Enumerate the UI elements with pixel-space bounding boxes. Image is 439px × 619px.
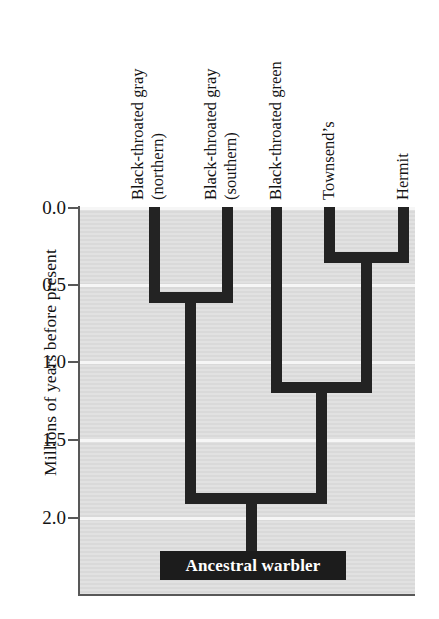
y-tick-label-4: 2.0: [10, 508, 66, 527]
branch-tip-black-throated-gray-southern: [222, 207, 233, 297]
branch-stem-root: [246, 493, 257, 551]
y-tick-label-1: 0.5: [10, 275, 66, 294]
y-tick-label-0: 0.0: [10, 198, 66, 217]
phylogenetic-tree-figure: Millions of years before present 0.0 0.5…: [0, 0, 439, 619]
taxon-label-line1: Black-throated gray: [128, 69, 148, 200]
taxon-label-line1: Black-throated gray: [201, 69, 221, 200]
taxon-label-black-throated-green: Black-throated green: [266, 61, 286, 200]
ancestral-warbler-label: Ancestral warbler: [160, 551, 346, 580]
taxon-label-line1: Townsend’s: [319, 121, 339, 200]
taxon-label-line1: Hermit: [393, 153, 413, 200]
branch-stem-gray-clade: [185, 292, 196, 504]
branch-tip-townsends: [324, 207, 335, 258]
taxon-label-line2: (southern): [221, 69, 241, 200]
x-axis-spine: [78, 594, 415, 596]
gridline-0.0: [80, 207, 415, 210]
plot-panel: [80, 207, 415, 594]
branch-stem-green-clade: [316, 382, 327, 504]
y-tick-label-2: 1.0: [10, 352, 66, 371]
y-tick-mark-0: [68, 207, 80, 209]
taxon-label-townsends: Townsend’s: [319, 121, 339, 200]
y-tick-mark-3: [68, 439, 80, 441]
y-tick-mark-1: [68, 284, 80, 286]
y-axis-tick-labels: 0.0 0.5 1.0 1.5 2.0: [8, 0, 66, 619]
y-tick-label-3: 1.5: [10, 430, 66, 449]
taxon-label-black-throated-gray-northern: Black-throated gray (northern): [128, 69, 168, 200]
taxon-label-hermit: Hermit: [393, 153, 413, 200]
taxon-label-line2: (northern): [148, 69, 168, 200]
taxon-label-line1: Black-throated green: [266, 61, 286, 200]
y-tick-mark-4: [68, 517, 80, 519]
taxon-label-black-throated-gray-southern: Black-throated gray (southern): [201, 69, 241, 200]
branch-tip-black-throated-gray-northern: [149, 207, 160, 297]
gridline-1.5: [80, 439, 415, 442]
y-tick-mark-2: [68, 361, 80, 363]
branch-stem-townsends-hermit-clade: [361, 252, 372, 382]
branch-tip-black-throated-green: [271, 207, 282, 382]
branch-tip-hermit: [398, 207, 409, 258]
